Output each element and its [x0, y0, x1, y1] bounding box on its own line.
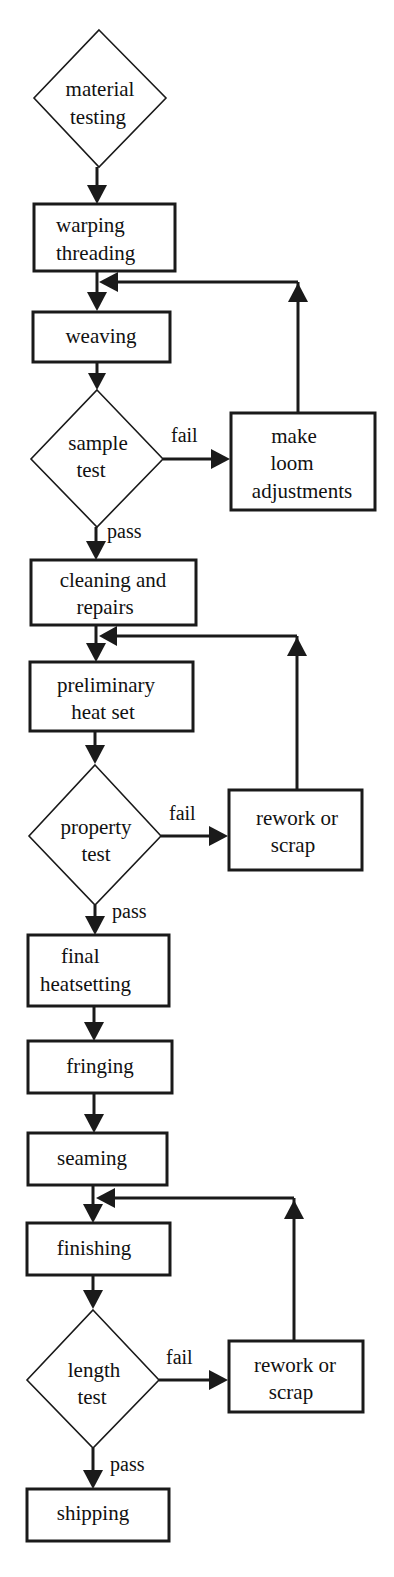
node-label: testing: [70, 105, 126, 129]
node-label: cleaning and: [60, 568, 167, 592]
node-label: finishing: [57, 1236, 132, 1260]
arrow-length-test-pass: pass: [83, 1448, 145, 1489]
node-material-testing: material testing: [34, 30, 166, 167]
arrow-sample-test-fail: fail: [163, 424, 230, 469]
node-label: threading: [56, 241, 136, 265]
node-label: heat set: [71, 700, 135, 724]
node-make-loom-adjustments: make loom adjustments: [231, 413, 375, 510]
node-label: scrap: [269, 1380, 313, 1404]
node-length-test: length test: [27, 1310, 159, 1448]
node-fringing: fringing: [28, 1041, 172, 1093]
arrow-length-test-fail: fail: [159, 1346, 228, 1390]
node-label: fringing: [66, 1054, 134, 1078]
arrow-sample-test-pass: pass: [86, 520, 142, 560]
node-label: sample: [68, 431, 127, 455]
node-rework-scrap-1: rework or scrap: [229, 790, 362, 870]
node-rework-scrap-2: rework or scrap: [229, 1341, 363, 1412]
node-label: seaming: [57, 1146, 127, 1170]
arrow-property-test-fail: fail: [161, 802, 228, 846]
arrow-finishing-to-length-test: [83, 1275, 103, 1309]
node-sample-test: sample test: [31, 390, 163, 527]
node-label: test: [77, 1385, 106, 1409]
node-label: loom: [270, 451, 313, 475]
node-property-test: property test: [29, 765, 161, 905]
node-label: weaving: [65, 324, 137, 348]
node-weaving: weaving: [33, 312, 170, 362]
node-label: length: [68, 1358, 121, 1382]
edge-label-fail: fail: [171, 424, 198, 446]
arrow-warping-to-weaving: [87, 271, 107, 311]
node-label: warping: [56, 213, 125, 237]
node-label: final: [61, 944, 100, 968]
node-label: property: [60, 815, 132, 839]
flowchart-canvas: material testing warping threading weavi…: [0, 0, 394, 1577]
arrow-property-test-pass: pass: [85, 900, 147, 935]
node-label: material: [66, 77, 135, 101]
arrow-fringing-to-seaming: [84, 1093, 104, 1133]
node-label: rework or: [256, 806, 338, 830]
edge-label-fail: fail: [169, 802, 196, 824]
node-label: shipping: [57, 1501, 130, 1525]
node-label: heatsetting: [40, 972, 131, 996]
node-label: adjustments: [252, 479, 352, 503]
arrow-preliminary-to-property-test: [85, 731, 105, 764]
node-label: make: [271, 424, 316, 448]
edge-label-pass: pass: [112, 900, 147, 923]
node-seaming: seaming: [28, 1133, 167, 1185]
node-label: test: [81, 842, 110, 866]
arrow-weaving-to-sample-test: [88, 362, 106, 390]
arrow-seaming-to-finishing: [83, 1185, 103, 1223]
node-final-heatsetting: final heatsetting: [28, 935, 169, 1006]
arrow-material-to-warping: [87, 167, 107, 204]
node-label: test: [76, 458, 105, 482]
arrow-final-to-fringing: [84, 1006, 104, 1041]
node-preliminary-heat-set: preliminary heat set: [30, 662, 193, 731]
node-shipping: shipping: [27, 1489, 169, 1541]
node-label: rework or: [254, 1353, 336, 1377]
node-cleaning-repairs: cleaning and repairs: [31, 560, 196, 625]
node-label: scrap: [271, 833, 315, 857]
node-warping-threading: warping threading: [34, 204, 175, 271]
node-label: preliminary: [57, 673, 155, 697]
arrow-cleaning-to-preliminary: [86, 625, 106, 662]
edge-label-pass: pass: [107, 520, 142, 543]
edge-label-fail: fail: [166, 1346, 193, 1368]
node-label: repairs: [76, 595, 133, 619]
node-finishing: finishing: [27, 1223, 170, 1275]
edge-label-pass: pass: [110, 1453, 145, 1476]
